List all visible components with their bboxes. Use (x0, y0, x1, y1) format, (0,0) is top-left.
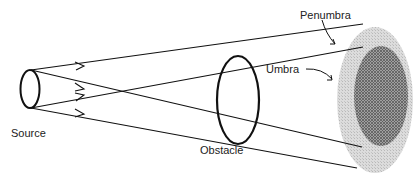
umbra-pointer-arrow-icon (306, 69, 332, 79)
penumbra-label: Penumbra (300, 9, 352, 21)
obstacle-label: Obstacle (200, 144, 243, 156)
umbra-pointer-head-icon (327, 75, 332, 80)
ray-arrows (75, 62, 84, 117)
umbra-label: Umbra (266, 63, 300, 75)
obstacle-ellipse (217, 56, 259, 144)
light-rays (31, 24, 363, 168)
umbra-region (354, 46, 408, 146)
arrow-icon (75, 83, 84, 91)
source-label: Source (11, 127, 46, 139)
ray-top-cross (31, 70, 362, 147)
source-ellipse (21, 70, 40, 108)
ray-top-outer (31, 24, 363, 70)
shadow-diagram: Source Obstacle Penumbra Umbra (0, 0, 417, 180)
ray-bottom-cross (31, 47, 363, 108)
ray-bottom-outer (31, 108, 357, 168)
